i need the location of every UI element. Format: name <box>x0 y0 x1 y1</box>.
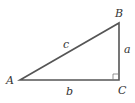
side-label-b: b <box>66 85 73 98</box>
vertex-label-b: B <box>114 7 123 20</box>
right-angle-marker <box>113 74 119 80</box>
side-label-c: c <box>63 38 69 51</box>
triangle-outline <box>20 23 119 80</box>
side-label-a: a <box>124 43 131 56</box>
right-triangle-diagram: A B C a b c <box>0 0 135 103</box>
vertex-label-a: A <box>5 74 14 87</box>
vertex-label-c: C <box>118 84 127 97</box>
